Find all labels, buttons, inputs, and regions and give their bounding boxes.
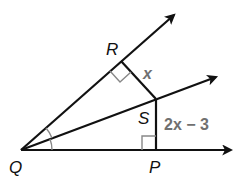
vertex-label-P: P [149, 158, 161, 177]
measure-label-RS: x [142, 65, 153, 82]
vertex-label-R: R [106, 40, 118, 59]
vertex-label-S: S [138, 109, 150, 128]
angle-arc-SQP [50, 139, 52, 150]
angle-arc-RQS [46, 128, 52, 138]
ray-QR [21, 15, 174, 150]
geometry-diagram: R S Q P x 2x − 3 [0, 0, 242, 194]
right-angle-mark-P [142, 136, 156, 150]
vertex-label-Q: Q [9, 158, 22, 177]
right-angle-mark-R [110, 71, 131, 82]
measure-label-SP: 2x − 3 [164, 116, 209, 133]
